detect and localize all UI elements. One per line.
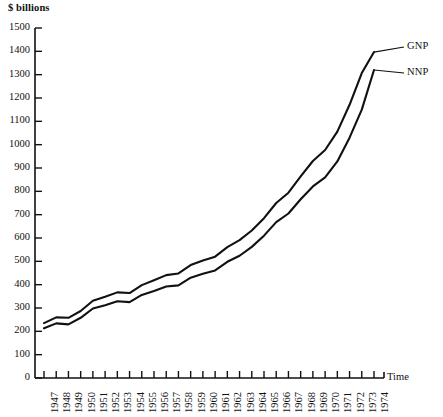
- x-axis-ticks: [44, 371, 374, 378]
- series-line-nnp: [44, 70, 374, 328]
- gnp-nnp-line-chart: $ billions Time GNP NNP 1500140013001200…: [0, 0, 443, 417]
- chart-canvas: [0, 0, 443, 417]
- gnp-leader-line: [374, 47, 404, 52]
- series-group: [44, 52, 374, 328]
- leader-lines: [374, 47, 404, 73]
- y-axis-ticks: [35, 28, 42, 378]
- series-line-gnp: [44, 52, 374, 323]
- nnp-leader-line: [374, 70, 404, 73]
- axes-group: [35, 28, 384, 378]
